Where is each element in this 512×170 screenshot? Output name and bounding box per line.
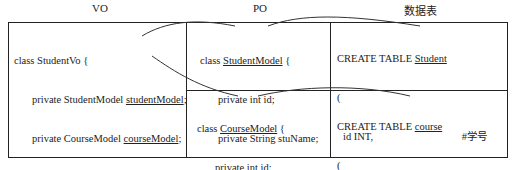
connector-course-model-to-table bbox=[258, 88, 410, 96]
mapping-connectors bbox=[0, 0, 512, 170]
connector-vo-to-student-model bbox=[142, 22, 235, 36]
connector-student-model-to-table bbox=[268, 17, 420, 26]
connector-vo-to-course-model bbox=[152, 56, 238, 96]
